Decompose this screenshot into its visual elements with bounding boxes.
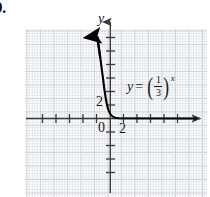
- x-axis-tick-label-2: 2: [119, 122, 126, 136]
- equation-close-paren: ): [164, 77, 170, 97]
- y-axis-tick-label-2: 2: [96, 95, 103, 109]
- fraction-numerator: 1: [155, 75, 162, 86]
- equation-lhs: y: [127, 80, 133, 94]
- origin-label: 0: [98, 121, 105, 135]
- exponential-graph-figure: 9.: [0, 0, 210, 197]
- equation-annotation: y = ( 1 3 ) x: [127, 75, 175, 98]
- equation-fraction: 1 3: [154, 75, 162, 98]
- equation-open-paren: (: [147, 77, 153, 97]
- y-axis-label: y: [98, 12, 104, 26]
- plot-canvas: [0, 0, 210, 197]
- fraction-denominator: 3: [155, 88, 162, 99]
- equation-exponent: x: [171, 74, 175, 83]
- equation-operator: =: [135, 80, 143, 94]
